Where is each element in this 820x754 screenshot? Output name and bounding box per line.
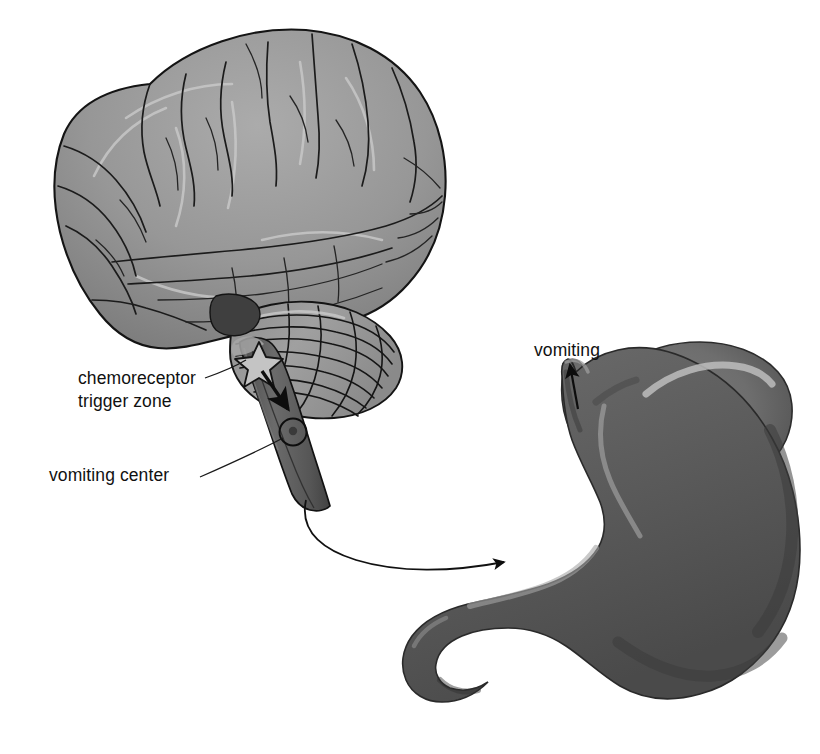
midbrain [210,294,260,336]
stomach [403,342,800,702]
ctz-label-line1: chemoreceptor [78,368,196,388]
vomiting-label: vomiting [534,340,600,360]
vomiting-reflex-diagram: chemoreceptor trigger zone vomiting cent… [0,0,820,754]
ctz-label-line2: trigger zone [78,391,172,411]
vomiting-center-label: vomiting center [49,465,169,485]
diagram-canvas: chemoreceptor trigger zone vomiting cent… [0,0,820,754]
vomiting-center-leader-line [200,438,283,477]
vagal-efferent-arrow [305,500,504,570]
